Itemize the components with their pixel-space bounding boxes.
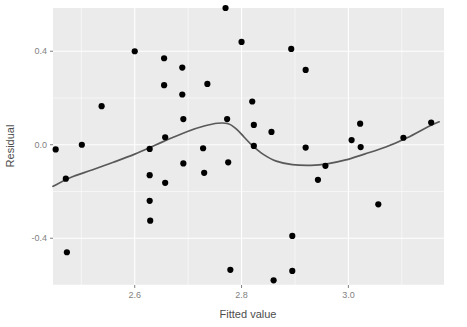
data-point (64, 249, 70, 255)
data-point (162, 134, 168, 140)
data-point (238, 39, 244, 45)
data-point (289, 268, 295, 274)
data-point (180, 160, 186, 166)
data-point (289, 233, 295, 239)
data-point (249, 98, 255, 104)
data-point (303, 144, 309, 150)
data-point (358, 144, 364, 150)
data-point (224, 116, 230, 122)
data-point (179, 65, 185, 71)
data-point (180, 116, 186, 122)
data-point (227, 267, 233, 273)
y-tick-label: -0.4 (31, 233, 47, 243)
data-point (63, 176, 69, 182)
data-point (147, 198, 153, 204)
data-point (357, 121, 363, 127)
y-axis-tick-labels: 0.40.0-0.4 (31, 46, 47, 243)
data-point (268, 129, 274, 135)
x-tick-label: 2.6 (128, 290, 141, 300)
data-point (303, 67, 309, 73)
data-point (315, 177, 321, 183)
data-point (53, 146, 59, 152)
data-point (288, 46, 294, 52)
data-point (161, 55, 167, 61)
data-point (179, 91, 185, 97)
data-point (400, 135, 406, 141)
x-tick-label: 3.0 (342, 290, 355, 300)
data-point (225, 159, 231, 165)
data-point (147, 172, 153, 178)
data-point (201, 170, 207, 176)
data-point (99, 103, 105, 109)
scatter-plot-residual-vs-fitted: 2.62.83.0 0.40.0-0.4 Fitted value Residu… (0, 0, 467, 327)
x-tick-label: 2.8 (235, 290, 248, 300)
data-point (251, 143, 257, 149)
x-axis-title: Fitted value (220, 308, 277, 320)
data-point (271, 277, 277, 283)
data-point (222, 5, 228, 11)
x-axis-tick-labels: 2.62.83.0 (128, 290, 354, 300)
chart-container: 2.62.83.0 0.40.0-0.4 Fitted value Residu… (0, 0, 467, 327)
x-axis-tick-marks (135, 285, 349, 288)
data-point (147, 146, 153, 152)
data-point (375, 201, 381, 207)
data-point (204, 81, 210, 87)
y-tick-label: 0.4 (34, 46, 47, 56)
data-point (428, 119, 434, 125)
data-point (322, 163, 328, 169)
data-point (79, 142, 85, 148)
data-point (348, 137, 354, 143)
y-axis-tick-marks (50, 51, 53, 238)
data-point (147, 218, 153, 224)
data-point (162, 180, 168, 186)
data-point (251, 122, 257, 128)
data-point (200, 145, 206, 151)
data-point (161, 82, 167, 88)
data-point (132, 48, 138, 54)
y-axis-title: Residual (4, 125, 16, 168)
y-tick-label: 0.0 (34, 140, 47, 150)
